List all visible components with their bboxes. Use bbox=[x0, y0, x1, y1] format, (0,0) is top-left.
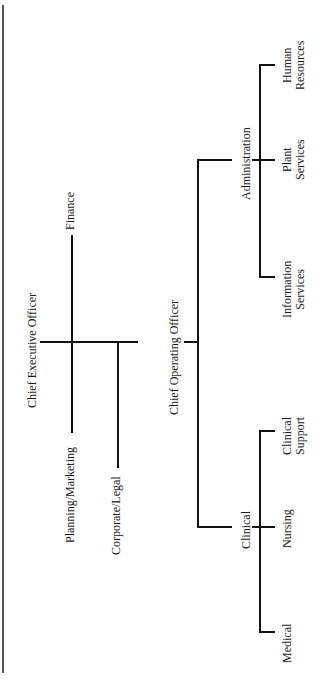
planning-marketing-label: Planning/Marketing bbox=[64, 447, 77, 543]
corporate-legal-line bbox=[117, 342, 119, 468]
clinical-label: Clinical bbox=[240, 511, 253, 549]
coo-label: Chief Operating Officer bbox=[168, 300, 181, 415]
clinical-group-line bbox=[259, 430, 261, 633]
plant-services-label: Plant Services bbox=[281, 139, 307, 180]
medical-tick bbox=[259, 631, 275, 633]
clinical-tick bbox=[252, 526, 275, 528]
corporate-legal-label: Corporate/Legal bbox=[110, 476, 123, 555]
admin-tick bbox=[252, 159, 275, 161]
ceo-main-line bbox=[40, 341, 138, 343]
medical-label: Medical bbox=[281, 624, 294, 663]
finance-label: Finance bbox=[64, 192, 77, 230]
nursing-label: Nursing bbox=[281, 509, 294, 548]
administration-branch bbox=[197, 159, 232, 161]
info-services-tick bbox=[259, 276, 275, 278]
clinical-support-tick bbox=[259, 430, 275, 432]
ceo-label: Chief Executive Officer bbox=[26, 293, 39, 408]
information-services-label: Information Services bbox=[281, 261, 307, 318]
admin-group-line bbox=[259, 65, 261, 278]
ceo-staff-line bbox=[71, 235, 73, 433]
org-chart: Chief Executive Officer Finance Planning… bbox=[0, 0, 317, 683]
administration-label: Administration bbox=[240, 127, 253, 200]
human-resources-tick bbox=[259, 64, 275, 66]
coo-division-line bbox=[197, 160, 199, 528]
human-resources-label: Human Resources bbox=[281, 41, 307, 90]
page-border-line bbox=[2, 5, 4, 673]
clinical-support-label: Clinical Support bbox=[281, 417, 307, 455]
clinical-branch bbox=[197, 526, 232, 528]
